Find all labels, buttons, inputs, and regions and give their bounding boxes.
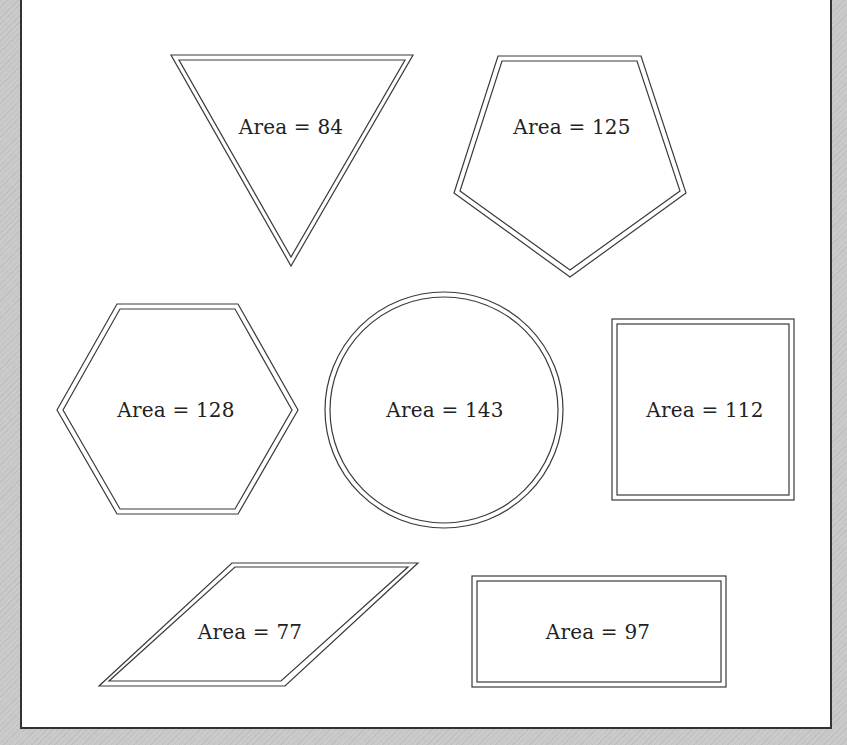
- triangle-area-label: Area = 84: [239, 115, 344, 139]
- pentagon-area-label: Area = 125: [513, 115, 630, 139]
- circle-area-label: Area = 143: [386, 398, 503, 422]
- pentagon-shape: [454, 56, 686, 277]
- square-area-label: Area = 112: [646, 398, 763, 422]
- triangle-shape: [171, 55, 413, 266]
- rectangle-area-label: Area = 97: [546, 620, 651, 644]
- shapes-figure: [0, 0, 847, 745]
- parallelogram-area-label: Area = 77: [198, 620, 303, 644]
- hexagon-area-label: Area = 128: [117, 398, 234, 422]
